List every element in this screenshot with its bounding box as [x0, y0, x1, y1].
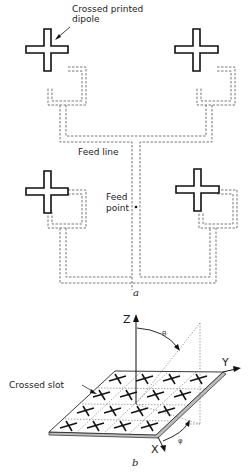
feed-line-bottom-outer: [60, 228, 216, 283]
crossed-dipole-top-right: [175, 29, 218, 71]
label-crossed-printed-dipole-1: Crossed printed: [72, 4, 143, 14]
label-axis-z: Z: [123, 313, 131, 326]
label-feed-point-1: Feed: [106, 192, 127, 202]
caption-b: b: [132, 457, 138, 468]
figure-a-feed-network: [48, 67, 237, 290]
feed-line-bottom-left-inner: [66, 228, 132, 277]
antenna-array-figure: Crossed printed dipole Feed line Feed po…: [0, 0, 252, 474]
figure-b-slot-array: [49, 314, 241, 452]
feed-point-dot: [135, 206, 138, 209]
label-phi: φ: [178, 437, 183, 445]
crossed-dipole-top-left: [26, 29, 68, 71]
theta-arc: [137, 328, 180, 351]
label-crossed-slot: Crossed slot: [9, 380, 64, 390]
feed-line-tl-outer: [48, 67, 86, 105]
caption-a: a: [133, 287, 139, 298]
feed-line-br-inner: [203, 194, 233, 224]
label-crossed-printed-dipole-2: dipole: [72, 14, 100, 24]
feed-line-bl-inner: [52, 194, 82, 224]
feed-line-bottom-right-inner: [140, 228, 210, 277]
crossed-dipole-bottom-left: [26, 171, 68, 213]
dipole-pointer-arrow: [55, 27, 70, 40]
feed-line-top-inner: [66, 105, 206, 136]
label-axis-y: Y: [221, 356, 229, 369]
label-axis-x: X: [151, 443, 159, 456]
feed-line-tl-inner: [52, 71, 82, 101]
feed-line-br-outer: [199, 190, 237, 228]
x-axis: [158, 437, 166, 452]
label-feed-line: Feed line: [78, 147, 119, 157]
label-theta: θ: [162, 330, 166, 338]
label-feed-point-2: point: [106, 203, 129, 213]
crossed-dipole-bottom-right: [176, 169, 219, 211]
feed-line-tr-outer: [197, 67, 235, 105]
feed-line-tr-inner: [201, 71, 231, 101]
